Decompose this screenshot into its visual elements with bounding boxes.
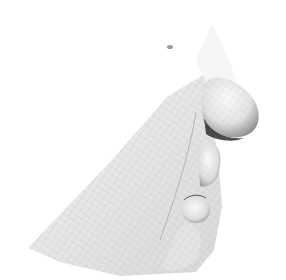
eye-marker: [167, 45, 173, 49]
face-mesh-render: [0, 0, 286, 280]
nose: [202, 77, 259, 140]
render-canvas: [0, 0, 286, 280]
